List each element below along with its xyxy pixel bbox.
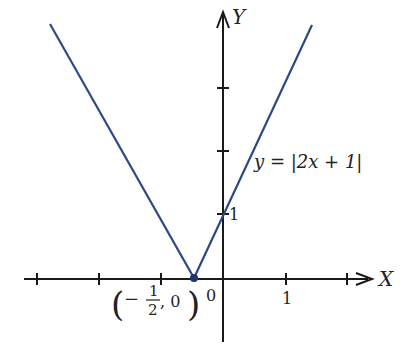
vertex-label: ( − 1 2 , 0 ) <box>111 282 200 324</box>
svg-text:2: 2 <box>148 301 158 319</box>
y-axis <box>217 12 229 342</box>
svg-text:−: − <box>124 288 139 309</box>
x-tick-label-1: 1 <box>282 289 292 308</box>
svg-text:(: ( <box>111 284 124 324</box>
y-tick-label-1: 1 <box>229 205 239 224</box>
origin-label: 0 <box>206 286 216 305</box>
svg-text:1: 1 <box>149 282 159 300</box>
equation-label: y = |2x + 1| <box>253 151 362 173</box>
svg-text:, 0: , 0 <box>160 292 180 311</box>
y-axis-label: Y <box>232 5 247 29</box>
graph: Y X 0 1 1 y = |2x + 1| ( − 1 2 , 0 ) <box>0 0 408 353</box>
vertex-point <box>190 274 198 282</box>
svg-text:): ) <box>187 284 200 324</box>
x-axis-label: X <box>377 267 394 291</box>
